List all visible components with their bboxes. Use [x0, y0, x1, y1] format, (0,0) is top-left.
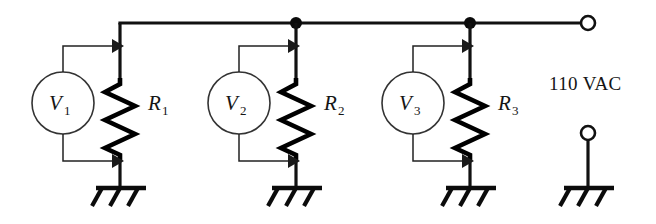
- voltmeter-v2-top-lead: [239, 46, 288, 72]
- voltmeter-v1-label: V: [49, 91, 64, 115]
- resistor-r2-symbol: [281, 78, 311, 161]
- voltmeter-v1-top-lead: [63, 46, 112, 72]
- ground-symbol-3: [442, 188, 496, 206]
- voltmeter-v2-top-probe-arrow-icon: [288, 39, 300, 53]
- voltmeter-v3-top-probe-arrow-icon: [462, 39, 474, 53]
- voltmeter-v2: [208, 72, 270, 134]
- voltmeter-v1-top-probe-arrow-icon: [112, 39, 124, 53]
- ground-symbol-1: [92, 188, 146, 206]
- voltmeter-v2-label: V: [225, 91, 240, 115]
- voltmeter-v3-subscript: 3: [414, 103, 421, 118]
- circuit-diagram: V 1 R 1 V 2 R 2: [0, 0, 656, 224]
- ground-symbol-4: [560, 188, 614, 206]
- resistor-r1-label: R: [147, 91, 161, 115]
- source-voltage-label: 110 VAC: [549, 73, 622, 94]
- resistor-r3-subscript: 3: [512, 103, 519, 118]
- resistor-r3-symbol: [455, 78, 485, 161]
- neutral-terminal-open-circle: [581, 126, 595, 140]
- resistor-r3-label: R: [497, 91, 511, 115]
- voltmeter-v1: [32, 72, 94, 134]
- ground-symbol-2: [268, 188, 322, 206]
- voltmeter-v3-label: V: [399, 91, 414, 115]
- resistor-r1-subscript: 1: [162, 103, 169, 118]
- voltmeter-v1-subscript: 1: [64, 103, 71, 118]
- voltmeter-v3: [382, 72, 444, 134]
- resistor-r2-label: R: [323, 91, 337, 115]
- circuit-schematic-canvas: V 1 R 1 V 2 R 2: [0, 0, 656, 224]
- line-terminal-open-circle: [581, 16, 595, 30]
- resistor-r2-subscript: 2: [338, 103, 345, 118]
- voltmeter-v3-top-lead: [413, 46, 462, 72]
- resistor-r1-symbol: [105, 78, 135, 161]
- voltmeter-v2-subscript: 2: [240, 103, 247, 118]
